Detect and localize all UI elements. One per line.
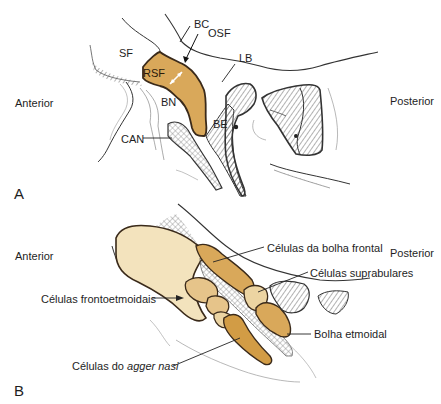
label-frontal-bulla-cells: Células da bolha frontal — [267, 242, 383, 254]
label-ethmoid-bulla: Bolha etmoidal — [314, 328, 387, 340]
label-osf: OSF — [208, 27, 231, 39]
label-bn: BN — [161, 96, 176, 108]
sphenoid-sinus — [262, 85, 323, 155]
agger-nasi-italic: agger nasi — [127, 360, 178, 372]
label-anterior-b: Anterior — [15, 250, 54, 262]
label-suprabullar-cells: Células suprabulares — [310, 267, 413, 279]
label-agger-nasi-cells: Células do agger nasi — [72, 360, 178, 372]
label-frontoethmoidal-cells: Células frontoetmoidais — [41, 293, 156, 305]
panel-a-drawing — [90, 14, 378, 196]
label-bc: BC — [194, 18, 209, 30]
anatomy-diagram — [0, 0, 441, 404]
label-can: CAN — [121, 133, 144, 145]
label-lb: LB — [239, 52, 252, 64]
label-sf: SF — [119, 47, 133, 59]
lamella-bulla — [225, 84, 256, 197]
panel-letter-b: B — [14, 382, 24, 399]
agger-nasi-prefix: Células do — [72, 360, 127, 372]
panel-letter-a: A — [14, 185, 24, 202]
label-posterior-a: Posterior — [390, 95, 434, 107]
label-posterior-b: Posterior — [390, 247, 434, 259]
label-be: BE — [213, 118, 228, 130]
label-anterior-a: Anterior — [15, 97, 54, 109]
label-rsf: RSF — [143, 67, 165, 79]
